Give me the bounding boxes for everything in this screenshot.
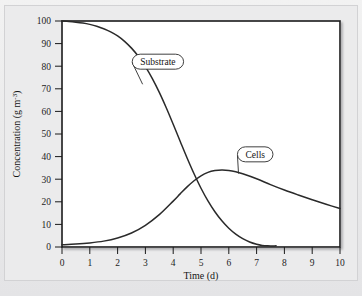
y-tick-label: 20 — [42, 197, 52, 207]
y-tick-label: 50 — [42, 129, 52, 139]
y-tick-label: 80 — [42, 62, 52, 72]
x-tick-label: 3 — [143, 258, 148, 268]
y-axis-title-suffix: ) — [11, 91, 23, 94]
y-axis-title-text: Concentration (g m — [11, 99, 23, 177]
y-tick-label: 0 — [46, 242, 51, 252]
y-axis-title: Concentration (g m-3) — [11, 91, 23, 178]
callout-label-cells: Cells — [245, 150, 265, 160]
y-tick-label: 60 — [42, 107, 52, 117]
y-tick-label: 70 — [42, 84, 52, 94]
x-tick-label: 1 — [87, 258, 92, 268]
x-axis-title: Time (d) — [184, 270, 219, 282]
figure-container: 0 10 20 30 40 50 60 70 80 90 100 Concent… — [0, 0, 362, 296]
svg-text:Concentration (g m-3): Concentration (g m-3) — [11, 91, 23, 178]
x-axis-ticks — [62, 247, 340, 254]
x-tick-label: 7 — [254, 258, 259, 268]
x-tick-label: 2 — [115, 258, 120, 268]
y-tick-label: 90 — [42, 39, 52, 49]
y-tick-label: 100 — [37, 16, 52, 26]
x-tick-label: 9 — [310, 258, 315, 268]
x-tick-label: 8 — [282, 258, 287, 268]
x-tick-label: 5 — [199, 258, 204, 268]
x-tick-label: 4 — [171, 258, 176, 268]
x-axis: 0 1 2 3 4 5 6 7 8 9 10 Time (d) — [60, 247, 345, 282]
y-axis-ticks — [55, 21, 62, 247]
y-axis: 0 10 20 30 40 50 60 70 80 90 100 Concent… — [11, 16, 62, 252]
x-tick-label: 0 — [60, 258, 65, 268]
x-tick-label: 10 — [335, 258, 345, 268]
plot-area — [62, 21, 340, 247]
x-tick-label: 6 — [226, 258, 231, 268]
y-tick-label: 10 — [42, 220, 52, 230]
y-tick-label: 30 — [42, 175, 52, 185]
concentration-vs-time-chart: 0 10 20 30 40 50 60 70 80 90 100 Concent… — [0, 0, 362, 296]
y-tick-label: 40 — [42, 152, 52, 162]
callout-label-substrate: Substrate — [140, 57, 175, 67]
